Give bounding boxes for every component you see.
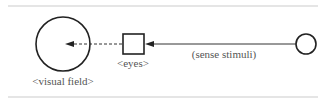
- arrowhead-icon: [145, 41, 154, 47]
- eyes-label: <eyes>: [117, 57, 149, 69]
- eyes-node: [123, 34, 144, 54]
- sense-stimuli-label: (sense stimuli): [192, 48, 257, 61]
- arrowhead-icon: [65, 41, 74, 47]
- source-node: [296, 34, 316, 54]
- visual-field-label: <visual field>: [32, 75, 94, 87]
- diagram-canvas: <visual field> <eyes> (sense stimuli): [0, 0, 325, 103]
